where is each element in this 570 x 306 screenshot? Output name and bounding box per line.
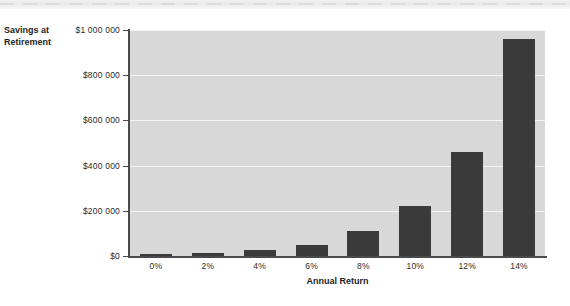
y-axis-tick — [123, 256, 129, 257]
bar — [244, 250, 276, 256]
x-axis-tick-label: 0% — [131, 261, 181, 271]
y-axis-tick — [123, 211, 129, 212]
x-axis-tick-label: 6% — [287, 261, 337, 271]
x-axis-tick-label: 10% — [390, 261, 440, 271]
bar — [140, 254, 172, 256]
x-axis-tick-label: 4% — [235, 261, 285, 271]
x-axis-tick-label: 2% — [183, 261, 233, 271]
y-axis-tick-label: $1 000 000 — [48, 25, 120, 35]
bar-chart-figure: Savings at Retirement $0$200 000$400 000… — [0, 0, 570, 306]
y-axis-tick-label: $600 000 — [48, 115, 120, 125]
bar — [192, 253, 224, 256]
y-axis-tick — [123, 166, 129, 167]
x-axis-tick-label: 14% — [494, 261, 544, 271]
y-axis-title-line-1: Savings at — [4, 25, 49, 35]
bar — [503, 39, 535, 256]
bar — [451, 152, 483, 256]
y-axis-title-line-2: Retirement — [4, 37, 51, 47]
x-axis-line — [128, 256, 547, 258]
x-axis-tick-label: 8% — [338, 261, 388, 271]
y-axis-tick — [123, 75, 129, 76]
bar — [347, 231, 379, 256]
x-axis-tick-label: 12% — [442, 261, 492, 271]
y-axis-tick-label: $200 000 — [48, 206, 120, 216]
x-axis-title: Annual Return — [130, 276, 545, 286]
y-axis-tick — [123, 30, 129, 31]
bar — [399, 206, 431, 256]
y-axis-tick-label: $400 000 — [48, 161, 120, 171]
y-axis-tick-label: $0 — [48, 251, 120, 261]
bar-series — [130, 30, 545, 256]
y-axis-tick-label: $800 000 — [48, 70, 120, 80]
y-axis-tick — [123, 120, 129, 121]
bar — [296, 245, 328, 256]
